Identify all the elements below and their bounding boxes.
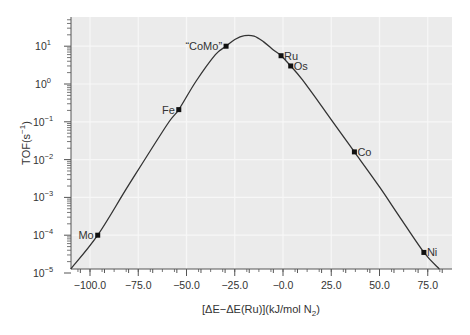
point-label: Fe [162,104,175,116]
volcano-chart: −100.0−75.0−50.0−25.0−0.025.050.075.0 10… [0,0,470,335]
x-tick-label: 25.0 [321,279,342,291]
x-tick-label: 75.0 [418,279,439,291]
point-label: Mo [78,229,93,241]
x-tick-label: −0.0 [273,279,294,291]
point-marker [288,63,293,68]
x-axis-ticks: −100.0−75.0−50.0−25.0−0.025.050.075.0 [74,269,442,291]
x-tick-label: −75.0 [125,279,152,291]
point-label: Ni [427,246,437,258]
y-tick-label: 10−1 [33,114,53,128]
plot-panel [71,17,452,269]
y-tick-label: 10−3 [33,189,53,203]
point-marker [224,44,229,49]
y-tick-label: 10−4 [33,227,53,241]
x-tick-label: 50.0 [369,279,390,291]
point-label: Os [294,60,309,72]
x-tick-label: −50.0 [173,279,200,291]
point-marker [279,53,284,58]
point-marker [421,250,426,255]
y-axis-label: TOF(s−1) [18,121,32,165]
y-tick-label: 10−2 [33,152,53,166]
y-tick-label: 100 [35,76,51,90]
point-label: “CoMo” [185,40,222,52]
point-marker [352,149,357,154]
point-marker [176,107,181,112]
point-label: Co [357,146,371,158]
y-tick-label: 10−5 [33,265,53,279]
point-marker [95,233,100,238]
y-tick-label: 101 [35,38,51,52]
x-tick-label: −100.0 [74,279,107,291]
y-axis-ticks: 10110010−110−210−310−410−5 [33,20,71,279]
x-tick-label: −25.0 [221,279,248,291]
x-axis-label: [ΔE−ΔE(Ru)](kJ/mol N2) [202,303,320,318]
